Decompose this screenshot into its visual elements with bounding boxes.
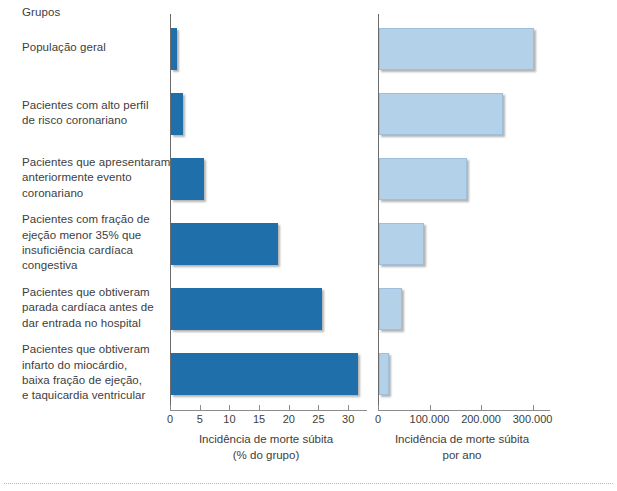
- x-axis-tick: [170, 405, 171, 411]
- category-label-line: parada cardíaca antes de: [22, 300, 172, 315]
- category-label: Pacientes que obtiveraminfarto do miocár…: [22, 342, 172, 404]
- category-label-line: Pacientes que obtiveram: [22, 285, 172, 300]
- bar: [171, 93, 183, 135]
- bar: [379, 93, 503, 135]
- bar: [379, 158, 467, 200]
- x-axis-line: [378, 410, 550, 411]
- x-axis-tick: [533, 405, 534, 411]
- bar: [379, 223, 424, 265]
- category-label-line: infarto do miocárdio,: [22, 358, 172, 373]
- category-label-line: anteriormente evento: [22, 170, 172, 185]
- bar: [171, 158, 204, 200]
- x-axis-tick-label: 30: [342, 413, 354, 425]
- x-axis-tick: [481, 405, 482, 411]
- category-label-line: dar entrada no hospital: [22, 316, 172, 331]
- category-label-line: e taquicardia ventricular: [22, 388, 172, 403]
- category-label-line: congestiva: [22, 258, 172, 273]
- category-label-line: de risco coronariano: [22, 113, 172, 128]
- bar: [379, 28, 534, 70]
- category-label-line: insuficiência cardíaca: [22, 243, 172, 258]
- bar: [171, 288, 322, 330]
- x-axis-tick-label: 10: [223, 413, 235, 425]
- x-axis-tick: [289, 405, 290, 411]
- x-axis-tick: [378, 405, 379, 411]
- chart-panel-percent: 051015202530 Incidência de morte súbita(…: [170, 14, 370, 430]
- category-label-line: baixa fração de ejeção,: [22, 373, 172, 388]
- y-axis-line: [378, 14, 379, 410]
- x-axis-title-line: Incidência de morte súbita: [362, 432, 562, 448]
- x-axis-tick-label: 25: [312, 413, 324, 425]
- category-label-line: Pacientes com fração de: [22, 212, 172, 227]
- x-axis-title-line: Incidência de morte súbita: [166, 432, 366, 448]
- plot-area-per-year: 0100.000200.000300.000: [378, 14, 578, 410]
- footer-divider: [4, 483, 613, 484]
- x-axis-tick: [229, 405, 230, 411]
- bar: [379, 288, 402, 330]
- bar: [171, 223, 278, 265]
- x-axis-tick: [348, 405, 349, 411]
- x-axis-title-percent: Incidência de morte súbita(% do grupo): [166, 432, 366, 463]
- category-label-column: Grupos População geralPacientes com alto…: [0, 0, 168, 430]
- category-label-line: coronariano: [22, 186, 172, 201]
- x-axis-title-line: (% do grupo): [166, 448, 366, 464]
- chart-figure: Grupos População geralPacientes com alto…: [0, 0, 617, 491]
- x-axis-tick-label: 300.000: [513, 413, 553, 425]
- category-label: Pacientes que obtiveramparada cardíaca a…: [22, 285, 172, 331]
- x-axis-tick: [318, 405, 319, 411]
- category-label-line: ejeção menor 35% que: [22, 228, 172, 243]
- x-axis-title-per-year: Incidência de morte súbitapor ano: [362, 432, 562, 463]
- category-label: Pacientes que apresentaramanteriormente …: [22, 155, 172, 201]
- y-axis-line: [170, 14, 171, 410]
- x-axis-tick: [430, 405, 431, 411]
- x-axis-tick-label: 200.000: [461, 413, 501, 425]
- x-axis-tick: [200, 405, 201, 411]
- x-axis-tick: [259, 405, 260, 411]
- x-axis-tick-label: 100.000: [410, 413, 450, 425]
- category-label: População geral: [22, 40, 172, 55]
- bar: [171, 28, 177, 70]
- groups-column-header: Grupos: [22, 6, 60, 18]
- x-axis-tick-label: 0: [167, 413, 173, 425]
- x-axis-tick-label: 20: [283, 413, 295, 425]
- x-axis-title-line: por ano: [362, 448, 562, 464]
- category-label: Pacientes com alto perfilde risco corona…: [22, 98, 172, 129]
- bar: [379, 353, 389, 395]
- category-label-line: Pacientes que obtiveram: [22, 342, 172, 357]
- category-label-line: Pacientes que apresentaram: [22, 155, 172, 170]
- plot-area-percent: 051015202530: [170, 14, 370, 410]
- category-label-line: População geral: [22, 40, 172, 55]
- category-label: Pacientes com fração deejeção menor 35% …: [22, 212, 172, 274]
- bar: [171, 353, 358, 395]
- x-axis-tick-label: 5: [197, 413, 203, 425]
- x-axis-tick-label: 0: [375, 413, 381, 425]
- category-label-line: Pacientes com alto perfil: [22, 98, 172, 113]
- x-axis-tick-label: 15: [253, 413, 265, 425]
- chart-panel-per-year: 0100.000200.000300.000 Incidência de mor…: [378, 14, 578, 430]
